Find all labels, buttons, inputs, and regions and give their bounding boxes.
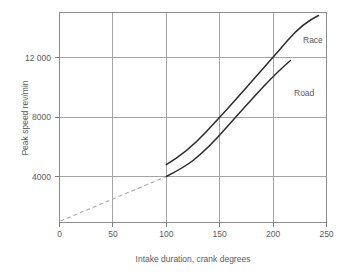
horizontal-gridlines — [60, 58, 327, 177]
x-tick-label-100: 100 — [159, 229, 173, 239]
dashed-extrapolation-line — [61, 177, 167, 222]
road-series-label: Road — [294, 88, 315, 98]
y-axis-title: Peak speed rev/min — [20, 80, 30, 155]
x-axis-title: Intake duration, crank degrees — [136, 254, 251, 264]
y-tick-label-12000: 12 000 — [25, 53, 51, 63]
x-tick-label-0: 0 — [57, 229, 62, 239]
road-line — [166, 61, 290, 177]
road-series — [166, 61, 290, 177]
race-series-label: Race — [303, 35, 323, 45]
y-axis-ticks — [55, 58, 60, 177]
y-tick-label-4000: 4000 — [32, 172, 51, 182]
y-tick-label-8000: 8000 — [32, 112, 51, 122]
chart-container: 12 000 8000 4000 0 50 100 150 200 250 In… — [0, 0, 350, 278]
x-tick-label-250: 250 — [319, 229, 333, 239]
x-tick-label-150: 150 — [213, 229, 227, 239]
x-axis-ticks — [60, 222, 327, 227]
x-tick-labels: 0 50 100 150 200 250 — [57, 229, 334, 239]
extrapolation-series — [61, 177, 167, 222]
line-chart: 12 000 8000 4000 0 50 100 150 200 250 In… — [0, 0, 350, 278]
x-tick-label-50: 50 — [108, 229, 118, 239]
x-tick-label-200: 200 — [266, 229, 280, 239]
